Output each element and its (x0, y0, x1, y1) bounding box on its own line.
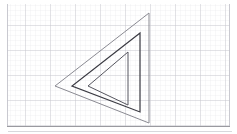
grid-fill (7, 4, 230, 126)
graph-paper-grid (7, 4, 230, 126)
screenshot-root (0, 0, 237, 134)
drawing-canvas[interactable] (0, 0, 237, 134)
drawing-surface[interactable] (0, 0, 237, 134)
